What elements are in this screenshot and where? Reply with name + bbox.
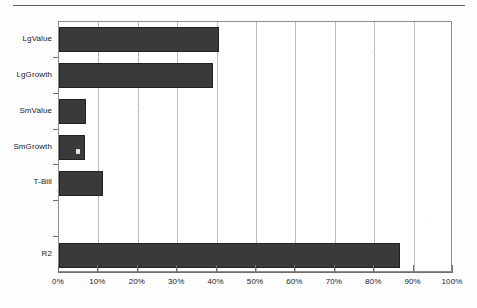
x-tick: [294, 265, 295, 273]
category-tick: [53, 164, 58, 165]
x-tick: [452, 265, 453, 273]
x-tick-label-30pct: 30%: [156, 277, 196, 286]
page-top-rule: [13, 5, 465, 6]
gridline: [98, 22, 99, 271]
x-tick-label-50pct: 50%: [235, 277, 275, 286]
x-tick-label-20pct: 20%: [117, 277, 157, 286]
bar-lgvalue: [59, 27, 219, 52]
bar-smvalue: [59, 99, 86, 124]
gridline: [414, 22, 415, 271]
gridline: [374, 22, 375, 271]
bar-r2: [59, 243, 400, 268]
x-tick-label-80pct: 80%: [353, 277, 393, 286]
category-label-t-bill: T-Bill: [0, 177, 52, 186]
category-tick: [53, 236, 58, 237]
category-tick: [53, 57, 58, 58]
x-tick-label-60pct: 60%: [274, 277, 314, 286]
x-tick: [176, 265, 177, 273]
bar-smgrowth: [59, 135, 85, 160]
category-label-lggrowth: LgGrowth: [0, 70, 52, 79]
scan-speck: [76, 149, 80, 154]
category-label-smgrowth: SmGrowth: [0, 142, 52, 151]
chart-page: LgValueLgGrowthSmValueSmGrowthT-BillR2 0…: [0, 0, 477, 308]
x-tick: [255, 265, 256, 273]
x-tick: [373, 265, 374, 273]
category-tick: [53, 200, 58, 201]
x-tick: [216, 265, 217, 273]
x-tick: [58, 265, 59, 273]
gridline: [335, 22, 336, 271]
x-tick-label-90pct: 90%: [393, 277, 433, 286]
category-label-r2: R2: [0, 249, 52, 258]
x-tick: [137, 265, 138, 273]
x-tick-label-10pct: 10%: [77, 277, 117, 286]
gridline: [256, 22, 257, 271]
x-tick: [334, 265, 335, 273]
gridline: [138, 22, 139, 271]
category-label-smvalue: SmValue: [0, 106, 52, 115]
x-tick: [97, 265, 98, 273]
category-tick: [53, 129, 58, 130]
x-tick: [413, 265, 414, 273]
gridline: [295, 22, 296, 271]
gridline: [217, 22, 218, 271]
bar-t-bill: [59, 171, 103, 196]
gridline: [177, 22, 178, 271]
bar-lggrowth: [59, 63, 213, 88]
plot-area: [58, 21, 452, 272]
x-tick-label-100pct: 100%: [432, 277, 472, 286]
category-label-lgvalue: LgValue: [0, 34, 52, 43]
category-tick: [53, 93, 58, 94]
x-tick-label-40pct: 40%: [196, 277, 236, 286]
x-tick-label-0pct: 0%: [38, 277, 78, 286]
x-tick-label-70pct: 70%: [314, 277, 354, 286]
